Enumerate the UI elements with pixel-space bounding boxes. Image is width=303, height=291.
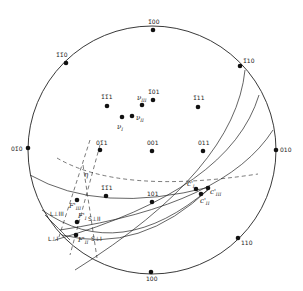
pole-label: 1̄1̄1 xyxy=(101,93,113,100)
c-label: c'III xyxy=(210,188,221,197)
pole-label: 01̄0 xyxy=(11,145,23,152)
l-perp-iii-label: L⊥III xyxy=(50,210,64,217)
c-label: c'II xyxy=(200,197,210,206)
l-perp-i-label: L⊥I xyxy=(48,235,59,242)
nu-label: νII xyxy=(136,114,144,123)
f-label: F'II xyxy=(77,236,89,245)
c-label: c'I xyxy=(187,180,195,189)
pole-label: 001 xyxy=(147,139,159,146)
pole-label: 011 xyxy=(198,139,210,146)
pole-label: 100 xyxy=(146,275,158,282)
s-perp-i-label: S⊥I xyxy=(91,235,102,242)
pole-label: 1̄1̄0 xyxy=(56,51,68,58)
pole-label: 1̄1̄1 xyxy=(101,184,113,191)
pole-label: 1̄10 xyxy=(243,57,255,64)
pole-label: 1̄00 xyxy=(148,18,160,25)
pole-label: 1̄11 xyxy=(193,94,205,101)
f-label: F'III xyxy=(68,202,81,211)
pole-label: 010 xyxy=(280,146,292,153)
s-perp-ii-label: S⊥II xyxy=(88,215,101,222)
nu-label: νI xyxy=(117,123,123,132)
f-label: F'I xyxy=(77,212,87,221)
eta-label: η xyxy=(84,171,89,179)
stereographic-projection: 1̄00 1̄1̄0 1̄10 01̄0 010 110 100 1̄1̄1 1… xyxy=(0,0,303,291)
nu-label: νIII xyxy=(137,94,147,103)
pole-label: 101 xyxy=(147,190,159,197)
pole-label: 110 xyxy=(241,239,253,246)
pole-label: 1̄01 xyxy=(148,88,160,95)
pole-label: 01̄1 xyxy=(96,139,108,146)
